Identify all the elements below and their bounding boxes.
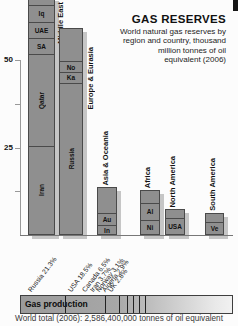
segment-label: In <box>104 227 110 234</box>
bar-segment: Au <box>98 213 116 225</box>
bar-segment: Qatar <box>29 54 54 146</box>
segment-label: SA <box>37 43 46 50</box>
y-tick <box>15 148 21 149</box>
subtitle-line: equivalent (2006) <box>120 55 226 64</box>
y-tick <box>15 104 21 105</box>
subtitle-line: million tonnes of oil <box>120 46 226 55</box>
y-tick <box>15 191 21 192</box>
region-label: Asia & Oceania <box>101 131 110 186</box>
gas-reserves-infographic: GAS RESERVES World natural gas reserves … <box>0 0 238 326</box>
bar-segment: SA <box>29 38 54 54</box>
bar-segment: Russia <box>60 83 82 234</box>
segment-label: Au <box>103 216 112 223</box>
segment-label: Russia <box>68 148 75 169</box>
production-divider <box>139 296 140 313</box>
segment-label: Iran <box>38 184 45 196</box>
region-bar: IqUAESAQatarIran <box>28 0 55 235</box>
bar-segment: Ka <box>60 72 82 82</box>
segment-label: Al <box>147 208 154 215</box>
bar-segment: In <box>98 225 116 234</box>
region-label: Europe & Eurasia <box>86 47 95 110</box>
bar-segment <box>60 29 82 61</box>
bar-segment: No <box>60 61 82 73</box>
y-tick-label: 25 <box>0 143 13 153</box>
region-label: Africa <box>143 167 152 188</box>
region-bar: USA <box>165 209 185 235</box>
production-pct-label: Russia 21.3% <box>27 256 58 293</box>
subtitle-line: World natural gas reserves by <box>120 27 226 36</box>
region-bar: AuIn <box>97 187 117 235</box>
segment-label: Qatar <box>38 92 45 109</box>
segment-label: Ka <box>67 74 75 81</box>
segment-label: No <box>67 64 76 71</box>
segment-label: Ve <box>211 225 219 232</box>
world-total-caption: World total (2006): 2,586,400,000 tonnes… <box>0 314 238 323</box>
production-divider <box>127 296 128 313</box>
bar-segment <box>206 214 223 222</box>
bar-segment: Iran <box>29 146 54 235</box>
bar-segment <box>141 191 159 203</box>
bar-segment: Al <box>141 203 159 219</box>
bar-segment: Iq <box>29 5 54 22</box>
baseline <box>20 235 233 236</box>
production-divider <box>133 296 134 313</box>
segment-label: USA <box>168 223 182 230</box>
bar-segment: USA <box>166 218 184 234</box>
bar-segment: Ni <box>141 220 159 234</box>
production-divider <box>105 296 106 313</box>
segment-label: Iq <box>39 10 45 17</box>
chart-subtitle: World natural gas reserves by region and… <box>120 27 226 64</box>
bar-segment: UAE <box>29 22 54 38</box>
bar-segment <box>98 188 116 213</box>
y-tick-label: 50 <box>0 55 13 65</box>
production-divider <box>65 296 66 313</box>
chart-title: GAS RESERVES <box>132 13 226 25</box>
segment-label: UAE <box>35 27 49 34</box>
region-label: South America <box>208 158 217 211</box>
region-bar: AlNi <box>140 190 160 235</box>
y-tick <box>15 60 21 61</box>
region-bar: Ve <box>205 213 224 235</box>
region-label: North America <box>168 156 177 207</box>
production-divider <box>145 296 146 313</box>
bar-segment <box>166 210 184 218</box>
segment-label: Ni <box>147 224 154 231</box>
page-corner-mark <box>233 0 238 11</box>
subtitle-line: region and country, thousand <box>120 36 226 45</box>
bar-segment: Ve <box>206 222 223 234</box>
region-bar: NoKaRussia <box>59 28 83 235</box>
production-divider <box>119 296 120 313</box>
